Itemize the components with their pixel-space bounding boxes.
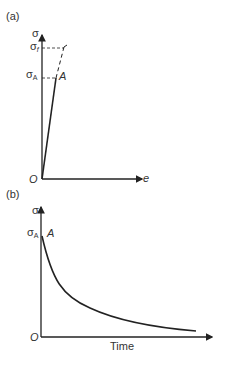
origin-label: O [29, 173, 38, 185]
point-a-label: A [58, 70, 66, 82]
sigma-a-label: σA [26, 68, 38, 81]
sigma-a-label: σA [27, 226, 39, 239]
x-axis-label: e [143, 172, 149, 184]
y-axis-label: σ [32, 204, 39, 216]
panel-a: (a) σ e O σf σA A [6, 10, 149, 185]
panel-b-label: (b) [6, 188, 19, 200]
panel-b: (b) σ Time O σA A [6, 188, 212, 352]
origin-label: O [30, 331, 39, 343]
panel-a-label: (a) [6, 10, 19, 22]
y-axis-label: σ [32, 27, 39, 39]
point-a-label: A [46, 227, 54, 239]
diagram: (a) σ e O σf σA A (b) σ Time O σA A [0, 0, 229, 365]
x-axis-label: Time [110, 340, 134, 352]
relaxation-curve [42, 236, 196, 331]
sigma-f-label: σf [30, 40, 40, 53]
elastic-line [42, 78, 56, 179]
fracture-tick [64, 45, 67, 47]
